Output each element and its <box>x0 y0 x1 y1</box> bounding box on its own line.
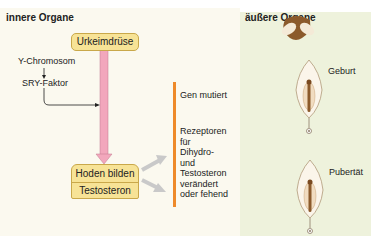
undifferentiated-genital-icon <box>280 16 317 40</box>
sry-faktor-label: SRY-Faktor <box>22 78 68 89</box>
defect-receptors: Rezeptoren für Dihydro- und Testosteron … <box>180 126 228 200</box>
pink-arrow-head <box>96 154 112 164</box>
external-genital-birth-icon <box>296 60 322 134</box>
sry-to-main-arrowhead <box>95 103 100 107</box>
hoden-testosteron-box: Hoden bilden Testosteron <box>71 164 139 199</box>
y-chromosom-label: Y-Chromosom <box>18 56 75 67</box>
gray-arrow-down-shaft <box>142 180 158 188</box>
urkeimdruese-box: Urkeimdrüse <box>71 33 139 51</box>
hoden-bilden-label: Hoden bilden <box>72 165 138 183</box>
pink-arrow-shaft <box>100 48 108 158</box>
defect-gene-mutated: Gen mutiert <box>180 90 227 101</box>
orange-block-bar <box>173 82 176 207</box>
stage-birth-label: Geburt <box>328 66 356 77</box>
gray-arrow-up-shaft <box>142 160 160 170</box>
sry-to-main-line <box>44 88 97 105</box>
stage-puberty-label: Pubertät <box>329 167 363 178</box>
external-genital-puberty-icon <box>297 160 323 234</box>
testosteron-label: Testosteron <box>72 183 138 199</box>
